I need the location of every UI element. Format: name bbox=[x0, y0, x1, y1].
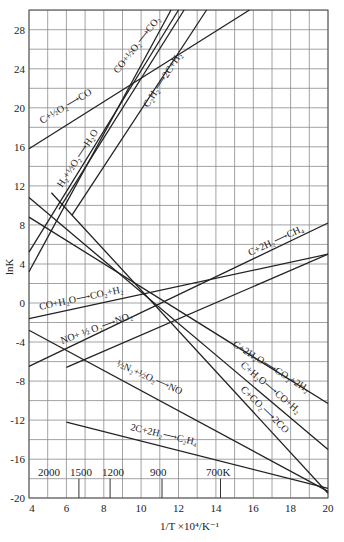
svg-text:12: 12 bbox=[173, 502, 184, 514]
svg-text:-4: -4 bbox=[16, 336, 26, 348]
svg-text:0: 0 bbox=[20, 297, 26, 309]
line-h2-h2o-b bbox=[59, 10, 184, 209]
temp-label-700k: 700K bbox=[206, 466, 231, 478]
label-c2h2: C₂H₂⟶2C+H₂ bbox=[140, 50, 184, 109]
label-co-co2: CO+½O₂⟶CO₂ bbox=[111, 14, 162, 76]
svg-text:8: 8 bbox=[101, 502, 107, 514]
x-axis-ticks: 4 6 8 10 12 14 16 18 20 bbox=[29, 502, 334, 514]
svg-text:-20: -20 bbox=[10, 492, 25, 504]
svg-text:-12: -12 bbox=[10, 414, 25, 426]
svg-text:6: 6 bbox=[64, 502, 70, 514]
svg-text:4: 4 bbox=[29, 502, 35, 514]
svg-text:12: 12 bbox=[14, 180, 25, 192]
svg-text:16: 16 bbox=[14, 141, 26, 153]
temp-label-900: 900 bbox=[150, 466, 167, 478]
y-axis-title: lnK bbox=[3, 258, 15, 275]
svg-text:16: 16 bbox=[248, 502, 260, 514]
svg-text:8: 8 bbox=[20, 219, 26, 231]
svg-text:24: 24 bbox=[14, 63, 26, 75]
lnk-vs-inverse-temperature-chart: 2000 1500 1200 900 700K C+½O₂⟶CO CO+½O₂⟶… bbox=[0, 0, 344, 542]
svg-text:10: 10 bbox=[136, 502, 148, 514]
temp-label-2000: 2000 bbox=[38, 466, 61, 478]
temp-label-1500: 1500 bbox=[70, 466, 93, 478]
svg-text:28: 28 bbox=[14, 24, 26, 36]
svg-text:20: 20 bbox=[14, 102, 26, 114]
temperature-markers: 2000 1500 1200 900 700K bbox=[38, 466, 231, 498]
svg-text:-16: -16 bbox=[10, 453, 25, 465]
label-ch4: C+2H₂⟶CH₄ bbox=[246, 222, 305, 257]
svg-text:14: 14 bbox=[210, 502, 222, 514]
temp-label-1200: 1200 bbox=[102, 466, 125, 478]
label-no: ½N₂+½O₂⟶NO bbox=[115, 358, 184, 397]
reaction-labels: C+½O₂⟶CO CO+½O₂⟶CO₂ H₂+½O₂⟶H₂O C₂H₂⟶2C+H… bbox=[37, 14, 311, 448]
svg-text:4: 4 bbox=[20, 258, 26, 270]
svg-text:18: 18 bbox=[285, 502, 297, 514]
svg-text:20: 20 bbox=[323, 502, 335, 514]
svg-text:-8: -8 bbox=[16, 375, 26, 387]
x-axis-title: 1/T ×10⁴/K⁻¹ bbox=[160, 520, 219, 532]
label-c2h4: 2C+2H₂⟶C₂H₄ bbox=[130, 421, 199, 447]
